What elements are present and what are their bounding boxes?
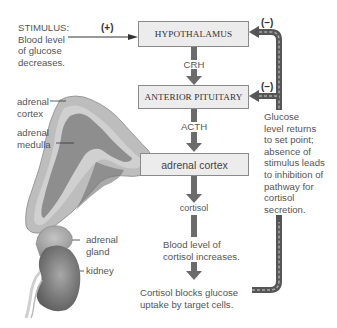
adrenal-gland-anatomy-label: adrenal gland <box>86 234 118 257</box>
anatomy-label-line: adrenal <box>86 234 118 246</box>
feedback-note-line: absence of <box>264 146 325 158</box>
feedback-note: Glucose level returns to set point; abse… <box>264 111 325 215</box>
hypothalamus-box: HYPOTHALAMUS <box>138 21 249 47</box>
adrenal-cortex-box: adrenal cortex <box>140 153 249 176</box>
feedback-note-line: cortisol <box>264 192 325 204</box>
acth-label: ACTH <box>180 121 208 133</box>
adrenal-medulla-anatomy-label: adrenal medulla <box>17 127 51 150</box>
blood-level-text: Blood level of cortisol increases. <box>163 239 240 262</box>
feedback-note-line: secretion. <box>264 204 325 216</box>
anatomy-label-line: adrenal <box>17 127 51 139</box>
hypothalamus-label: HYPOTHALAMUS <box>155 29 232 39</box>
anatomy-label-line: adrenal <box>17 96 49 108</box>
feedback-note-line: Glucose <box>264 111 325 123</box>
kidney-anatomy-label: kidney <box>86 265 114 277</box>
anatomy-label-line: medulla <box>17 139 51 151</box>
feedback-note-line: stimulus leads <box>264 157 325 169</box>
outcome-line: Blood level of <box>163 239 240 251</box>
adrenal-cortex-label: adrenal cortex <box>161 159 228 171</box>
cortisol-label: cortisol <box>176 203 212 215</box>
anterior-pituitary-label: ANTERIOR PITUITARY <box>145 92 243 102</box>
outcome-line: cortisol increases. <box>163 251 240 263</box>
stimulus-line: decreases. <box>18 57 69 69</box>
kidney-illustration <box>26 226 80 318</box>
anatomy-label-line: gland <box>86 246 118 258</box>
anterior-pituitary-box: ANTERIOR PITUITARY <box>138 85 249 109</box>
anatomy-label-line: cortex <box>17 108 49 120</box>
stimulus-heading: STIMULUS: <box>18 22 69 34</box>
feedback-note-line: level returns <box>264 123 325 135</box>
cortisol-blocks-text: Cortisol blocks glucose uptake by target… <box>140 287 238 310</box>
adrenal-cortex-anatomy-label: adrenal cortex <box>17 96 49 119</box>
feedback-note-line: to inhibition of <box>264 169 325 181</box>
outcome-line: uptake by target cells. <box>140 299 238 311</box>
feedback-note-line: pathway for <box>264 181 325 193</box>
stimulus-arrow <box>68 34 138 40</box>
positive-sign: (+) <box>101 22 114 33</box>
crh-label: CRH <box>183 59 205 71</box>
stimulus-text: STIMULUS: Blood level of glucose decreas… <box>18 22 69 68</box>
outcome-line: Cortisol blocks glucose <box>140 287 238 299</box>
feedback-note-line: to set point; <box>264 134 325 146</box>
stimulus-line: of glucose <box>18 45 69 57</box>
stimulus-line: Blood level <box>18 34 69 46</box>
negative-sign-hypothalamus: (–) <box>261 17 273 28</box>
negative-sign-pituitary: (–) <box>261 81 273 92</box>
